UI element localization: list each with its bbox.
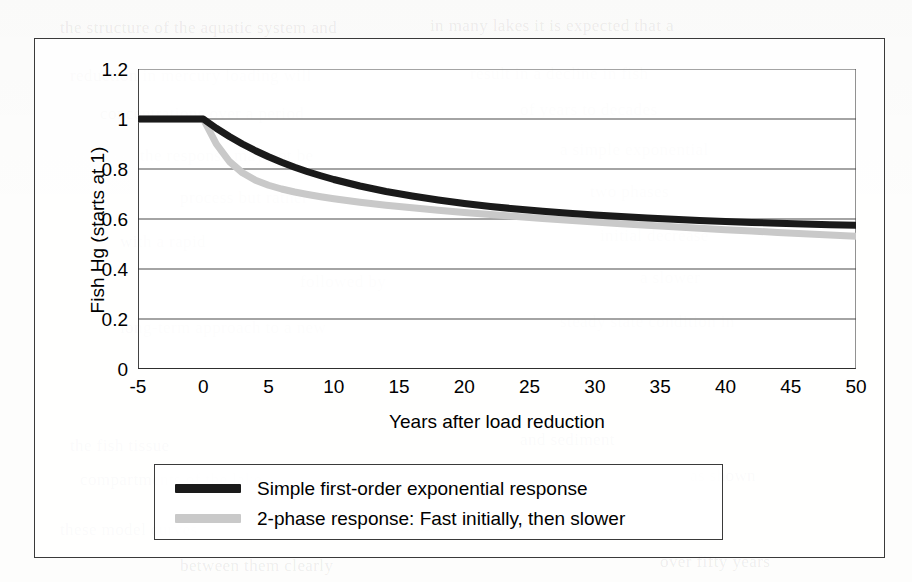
x-tick-label: 5 xyxy=(263,377,274,397)
legend-swatch-line-icon xyxy=(175,484,241,493)
ghost-text-line: in many lakes it is expected that a xyxy=(430,16,674,36)
chart-canvas xyxy=(138,69,856,369)
y-tick-label: 0 xyxy=(68,360,128,379)
x-tick-label: 45 xyxy=(780,377,801,397)
y-tick-label: 0.8 xyxy=(68,160,128,179)
x-tick-label: 10 xyxy=(323,377,344,397)
x-tick-label: 20 xyxy=(454,377,475,397)
x-tick-label: 35 xyxy=(650,377,671,397)
x-tick-label: -5 xyxy=(130,377,147,397)
y-tick-label: 0.2 xyxy=(68,310,128,329)
x-tick-label: 50 xyxy=(845,377,866,397)
x-tick-label: 30 xyxy=(584,377,605,397)
legend-item[interactable]: Simple first-order exponential response xyxy=(155,473,722,503)
x-tick-label: 40 xyxy=(715,377,736,397)
x-tick-label: 15 xyxy=(389,377,410,397)
plot-area xyxy=(138,69,856,369)
ghost-text-line: between them clearly xyxy=(180,556,333,576)
legend-swatch-line-icon xyxy=(175,514,241,523)
x-tick-label: 0 xyxy=(198,377,209,397)
y-tick-label: 1.2 xyxy=(68,60,128,79)
legend-item[interactable]: 2-phase response: Fast initially, then s… xyxy=(155,503,722,533)
legend-item-label: Simple first-order exponential response xyxy=(257,478,588,499)
ghost-text-line: the structure of the aquatic system and xyxy=(60,18,337,38)
y-tick-label: 0.6 xyxy=(68,210,128,229)
legend-item-label: 2-phase response: Fast initially, then s… xyxy=(257,508,625,529)
y-tick-label: 0.4 xyxy=(68,260,128,279)
chart-legend: Simple first-order exponential response2… xyxy=(154,464,723,540)
figure-outer-frame: Fish Hg (starts at 1) 1.210.80.60.40.20 … xyxy=(34,38,885,558)
x-axis-tick-labels: -505101520253035404550 xyxy=(138,377,856,403)
x-tick-label: 25 xyxy=(519,377,540,397)
x-axis-title: Years after load reduction xyxy=(138,411,856,433)
y-tick-label: 1 xyxy=(68,110,128,129)
y-axis-tick-labels: 1.210.80.60.40.20 xyxy=(64,69,128,369)
